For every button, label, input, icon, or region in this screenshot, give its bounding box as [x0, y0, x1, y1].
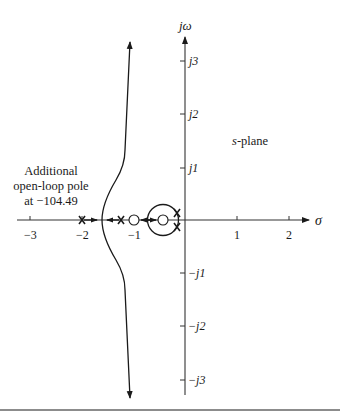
- tick-label-im-neg1: −j1: [188, 266, 205, 280]
- tick-label-re-2: 2: [286, 228, 292, 242]
- zero-marker-neg1: [129, 215, 139, 225]
- tick-label-re-neg2: −2: [76, 228, 89, 242]
- tick-label-im-neg2: −j2: [188, 319, 205, 333]
- pole-marker-complex-upper: [174, 209, 180, 217]
- tick-label-im-2: j2: [187, 107, 198, 121]
- tick-label-im-3: j3: [187, 54, 198, 68]
- locus-branch-lower: [102, 220, 130, 398]
- real-axis-label: σ: [315, 213, 323, 228]
- additional-pole-annotation: Additional open-loop pole at −104.49: [13, 164, 89, 208]
- pole-marker-complex-lower: [174, 223, 180, 231]
- tick-label-re-neg1: −1: [128, 228, 141, 242]
- root-locus-diagram: σ jω −3 −2 −1 1 2 j3 j2 j1 −j1 −j2 −j3 s…: [0, 0, 340, 419]
- svg-text:Additional: Additional: [24, 164, 78, 178]
- imag-axis-label: jω: [177, 18, 192, 33]
- zero-marker-near-origin: [158, 215, 168, 225]
- tick-label-im-neg3: −j3: [188, 373, 205, 387]
- svg-text:at −104.49: at −104.49: [24, 194, 78, 208]
- bottom-divider: [0, 409, 340, 411]
- locus-branch-upper: [102, 42, 130, 220]
- tick-label-re-neg3: −3: [24, 228, 37, 242]
- tick-label-re-1: 1: [234, 228, 240, 242]
- tick-label-im-1: j1: [187, 161, 198, 175]
- svg-text:open-loop pole: open-loop pole: [13, 179, 89, 193]
- s-plane-label: s-plane: [232, 134, 269, 148]
